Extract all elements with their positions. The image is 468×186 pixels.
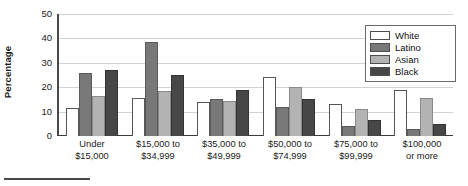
category-label: $35,000 to $49,999 [191, 139, 257, 162]
y-tick-label: 0 [47, 131, 52, 141]
bar [105, 70, 118, 136]
bar [433, 124, 446, 136]
category-label: $50,000 to $74,999 [257, 139, 323, 162]
bar-chart: Percentage 01020304050 Under $15,000$15,… [0, 0, 468, 186]
footer-rule [4, 178, 90, 180]
bar [329, 104, 342, 136]
legend-swatch [370, 67, 390, 76]
category-label: $75,000 to $99,999 [323, 139, 389, 162]
bar [79, 73, 92, 136]
bar [407, 129, 420, 136]
bar [289, 87, 302, 136]
y-tick-label: 50 [41, 9, 52, 19]
legend-item: White [370, 30, 451, 41]
x-axis-category-labels: Under $15,000$15,000 to $34,999$35,000 t… [59, 139, 455, 162]
legend-item: Black [370, 66, 451, 77]
legend-label: Latino [395, 43, 421, 53]
bar [368, 120, 381, 136]
bar [420, 98, 433, 136]
bar [145, 42, 158, 136]
category-label: $100,000 or more [389, 139, 455, 162]
bar [276, 107, 289, 136]
legend-label: Black [395, 67, 418, 77]
y-tick-label: 20 [41, 82, 52, 92]
bar [197, 102, 210, 136]
bar [171, 75, 184, 136]
legend-label: Asian [395, 55, 419, 65]
category-label: $15,000 to $34,999 [125, 139, 191, 162]
bar [92, 96, 105, 136]
y-axis-title: Percentage [2, 16, 16, 128]
bar [210, 99, 223, 136]
bar [236, 90, 249, 136]
y-tick-label: 40 [41, 34, 52, 44]
bar [355, 109, 368, 136]
legend-swatch [370, 55, 390, 64]
bar [158, 91, 171, 136]
legend-item: Latino [370, 42, 451, 53]
bar [394, 90, 407, 136]
legend-swatch [370, 31, 390, 40]
bar [302, 99, 315, 136]
category-label: Under $15,000 [59, 139, 125, 162]
bar-group [256, 14, 322, 136]
bar-group [59, 14, 125, 136]
legend-swatch [370, 43, 390, 52]
bar-group [190, 14, 256, 136]
bar [66, 108, 79, 136]
y-tick-label: 30 [41, 58, 52, 68]
bar-group [125, 14, 191, 136]
legend: WhiteLatinoAsianBlack [365, 25, 456, 82]
y-tick-label: 10 [41, 107, 52, 117]
legend-label: White [395, 31, 419, 41]
legend-item: Asian [370, 54, 451, 65]
bar [342, 126, 355, 136]
bar [132, 98, 145, 136]
bar [223, 101, 236, 136]
bar [263, 77, 276, 136]
